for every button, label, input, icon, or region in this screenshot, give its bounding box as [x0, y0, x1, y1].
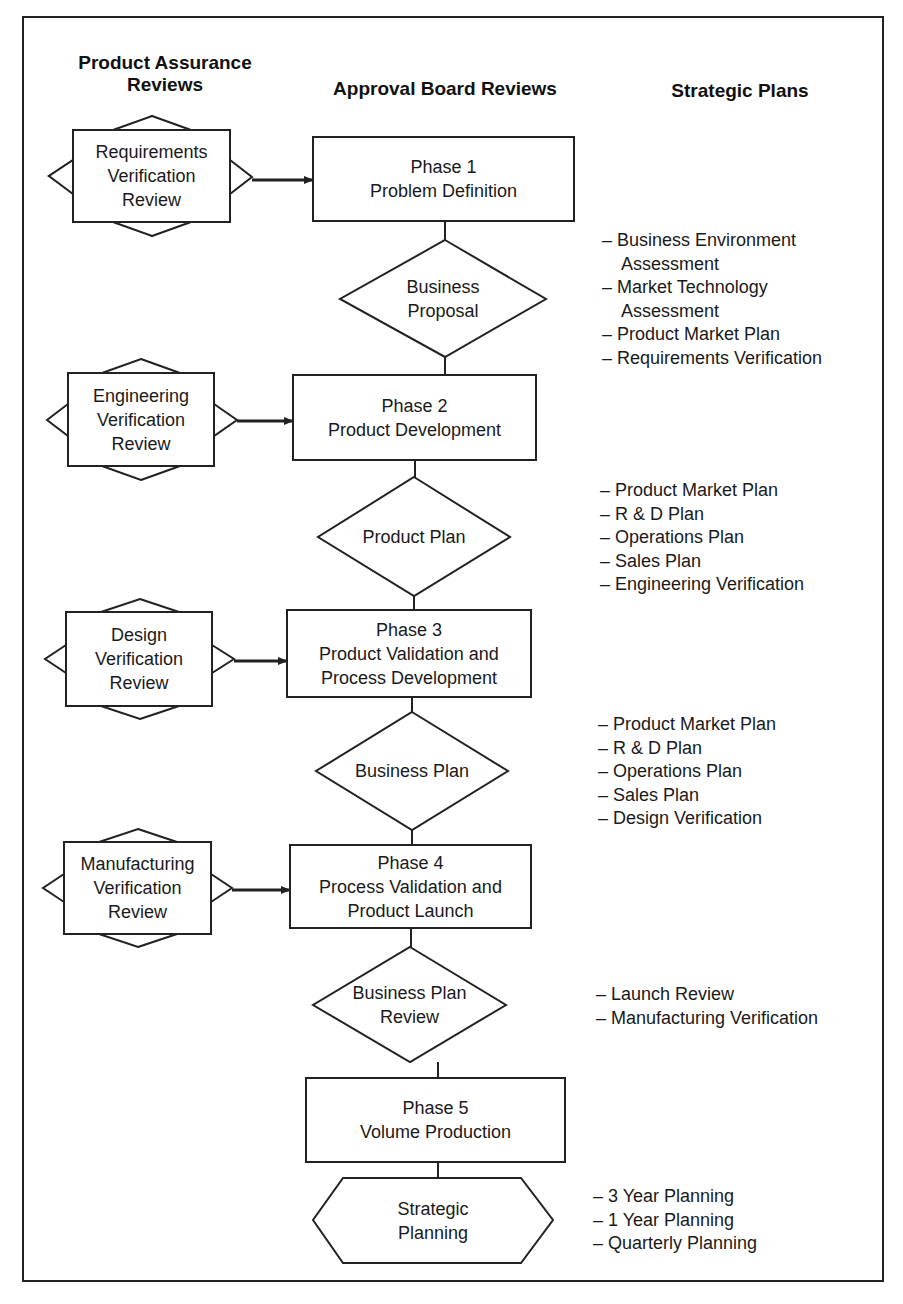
review-design: Design Verification Review	[66, 612, 212, 706]
phase-3: Phase 3 Product Validation and Process D…	[287, 610, 531, 697]
decision-label-line: Proposal	[407, 299, 478, 323]
review-label-line: Review	[109, 671, 168, 695]
decision-business-plan: Business Plan	[316, 712, 508, 830]
plan-item: – Business Environment	[602, 229, 822, 253]
phase-5: Phase 5 Volume Production	[306, 1078, 565, 1162]
header-product-assurance: Product Assurance Reviews	[55, 52, 275, 96]
review-label-line: Verification	[95, 647, 183, 671]
header-approval-board: Approval Board Reviews	[300, 78, 590, 100]
decision-business-proposal: Business Proposal	[340, 240, 546, 357]
plan-item: Assessment	[602, 300, 822, 324]
phase-1: Phase 1 Problem Definition	[313, 137, 574, 221]
decision-label-line: Review	[380, 1005, 439, 1029]
phase-2: Phase 2 Product Development	[293, 375, 536, 460]
terminal-strategic-planning: Strategic Planning	[313, 1178, 553, 1263]
terminal-label-line: Planning	[398, 1221, 468, 1245]
phase-label-line: Phase 2	[381, 394, 447, 418]
review-label-line: Verification	[107, 164, 195, 188]
phase-label-line: Phase 4	[377, 851, 443, 875]
review-label-line: Verification	[97, 408, 185, 432]
decision-label-line: Business Plan	[355, 759, 469, 783]
phase-label-line: Phase 3	[376, 618, 442, 642]
plan-item: – Design Verification	[598, 807, 776, 831]
plan-item: – Quarterly Planning	[593, 1232, 757, 1256]
review-label-line: Engineering	[93, 384, 189, 408]
plan-item: – Manufacturing Verification	[596, 1007, 818, 1031]
plan-item: – Product Market Plan	[602, 323, 822, 347]
plans-list-2: – Product Market Plan – R & D Plan – Ope…	[600, 479, 804, 597]
plan-item: – Operations Plan	[598, 760, 776, 784]
phase-label-line: Phase 5	[402, 1096, 468, 1120]
decision-label-line: Business	[406, 275, 479, 299]
phase-label-line: Product Development	[328, 418, 501, 442]
header-product-assurance-line1: Product Assurance	[78, 52, 252, 73]
plan-item: – Engineering Verification	[600, 573, 804, 597]
plan-item: – Requirements Verification	[602, 347, 822, 371]
terminal-label-line: Strategic	[397, 1197, 468, 1221]
review-manufacturing: Manufacturing Verification Review	[64, 842, 211, 934]
plan-item: – 3 Year Planning	[593, 1185, 757, 1209]
review-label-line: Verification	[93, 876, 181, 900]
review-requirements: Requirements Verification Review	[73, 130, 230, 222]
plan-item: – Sales Plan	[600, 550, 804, 574]
phase-label-line: Process Validation and	[319, 875, 502, 899]
decision-label-line: Business Plan	[352, 981, 466, 1005]
plan-item: Assessment	[602, 253, 822, 277]
phase-label-line: Process Development	[321, 666, 497, 690]
decision-business-plan-review: Business Plan Review	[313, 947, 506, 1062]
decision-label-line: Product Plan	[362, 525, 465, 549]
phase-label-line: Volume Production	[360, 1120, 511, 1144]
phase-label-line: Problem Definition	[370, 179, 517, 203]
phase-label-line: Phase 1	[410, 155, 476, 179]
review-label-line: Manufacturing	[80, 852, 194, 876]
phase-4: Phase 4 Process Validation and Product L…	[290, 845, 531, 928]
plans-list-5: – 3 Year Planning – 1 Year Planning – Qu…	[593, 1185, 757, 1256]
plan-item: – Launch Review	[596, 983, 818, 1007]
plan-item: – Operations Plan	[600, 526, 804, 550]
phase-label-line: Product Validation and	[319, 642, 499, 666]
review-label-line: Requirements	[95, 140, 207, 164]
plans-list-3: – Product Market Plan – R & D Plan – Ope…	[598, 713, 776, 831]
plans-list-1: – Business Environment Assessment – Mark…	[602, 229, 822, 370]
decision-product-plan: Product Plan	[318, 477, 510, 596]
plan-item: – 1 Year Planning	[593, 1209, 757, 1233]
phase-label-line: Product Launch	[347, 899, 473, 923]
plan-item: – Market Technology	[602, 276, 822, 300]
plan-item: – Sales Plan	[598, 784, 776, 808]
review-label-line: Review	[122, 188, 181, 212]
header-strategic-plans: Strategic Plans	[620, 80, 860, 102]
plan-item: – Product Market Plan	[600, 479, 804, 503]
review-engineering: Engineering Verification Review	[68, 373, 214, 466]
plans-list-4: – Launch Review – Manufacturing Verifica…	[596, 983, 818, 1030]
plan-item: – Product Market Plan	[598, 713, 776, 737]
plan-item: – R & D Plan	[598, 737, 776, 761]
review-label-line: Review	[108, 900, 167, 924]
review-label-line: Review	[111, 432, 170, 456]
plan-item: – R & D Plan	[600, 503, 804, 527]
review-label-line: Design	[111, 623, 167, 647]
header-product-assurance-line2: Reviews	[127, 74, 203, 95]
